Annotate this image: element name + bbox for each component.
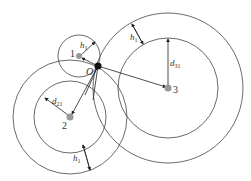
node-1	[76, 53, 82, 59]
node-2-label: 2	[62, 120, 67, 131]
h1-label-top: h1	[80, 40, 88, 51]
node-2	[67, 114, 74, 121]
line-o-node-3	[98, 66, 166, 87]
diagram-canvas: 1 2 3 O h1 h1 d31 d21 h1	[0, 0, 251, 181]
h1-label-right: h1	[130, 32, 138, 43]
center-label: O	[86, 66, 93, 77]
h1-label-bottom: h1	[73, 153, 81, 164]
d31-label: d31	[170, 58, 181, 69]
d21-label: d21	[52, 96, 63, 107]
node-3	[165, 85, 172, 92]
node-1-label: 1	[70, 48, 75, 59]
node-3-label: 3	[173, 84, 178, 95]
center-node-o	[95, 63, 102, 70]
